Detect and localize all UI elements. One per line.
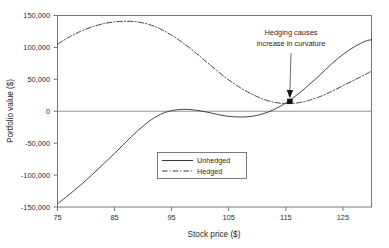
x-axis-title: Stock price ($)	[188, 230, 241, 239]
y-tick-label-100000: 100,000	[23, 43, 50, 52]
y-axis-ticks	[54, 16, 58, 208]
y-tick-label-neg50000: -50,000	[25, 139, 50, 148]
x-tick-label-95: 95	[167, 213, 175, 222]
y-tick-label-50000: 50,000	[27, 75, 50, 84]
chart-figure: 150,000 100,000 50,000 0 -50,000 -100,00…	[0, 0, 389, 248]
x-tick-label-115: 115	[280, 213, 292, 222]
annotation-line-1: Hedging causes	[264, 28, 317, 37]
x-tick-label-105: 105	[223, 213, 235, 222]
x-tick-label-75: 75	[53, 213, 61, 222]
annotation-line-2: increase in curvature	[257, 39, 326, 48]
y-axis-title: Portfolio value ($)	[6, 79, 15, 143]
legend-label-unhedged: Unhedged	[197, 156, 230, 165]
annotation-target-marker	[287, 99, 293, 104]
y-tick-label-150000: 150,000	[23, 11, 50, 20]
chart-legend: Unhedged Hedged	[158, 153, 247, 179]
x-axis-ticks	[58, 207, 343, 211]
portfolio-value-chart: 150,000 100,000 50,000 0 -50,000 -100,00…	[0, 0, 389, 248]
legend-label-hedged: Hedged	[197, 167, 222, 176]
y-tick-label-neg150000: -150,000	[21, 203, 50, 212]
y-tick-label-neg100000: -100,000	[21, 171, 50, 180]
x-tick-label-85: 85	[110, 213, 118, 222]
x-tick-label-125: 125	[337, 213, 349, 222]
y-tick-label-0: 0	[46, 107, 50, 116]
